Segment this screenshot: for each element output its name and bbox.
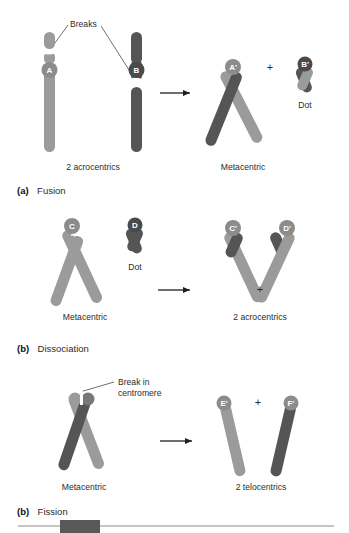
panel-b-arrow: [158, 287, 190, 293]
chromosome-F-prime-arm: [269, 403, 296, 478]
chromosome-A-prime-label: A': [229, 63, 237, 72]
footer-block: [60, 520, 100, 533]
panel-a-arrow: [160, 90, 190, 96]
footer-rule-group: [18, 520, 334, 533]
chromosome-D-dot: D Dot: [124, 218, 144, 273]
chromosome-D-prime-label: D': [283, 224, 291, 233]
chromosome-F-prime: F': [269, 396, 298, 478]
panel-a: Breaks A B 2 acrocentrics: [17, 19, 315, 197]
panel-c: Break in centromere Metacentric E' + F: [17, 377, 299, 518]
chromosome-C: C: [49, 218, 104, 308]
panel-a-caption-title: Fusion: [37, 185, 66, 196]
panel-a-dot-label: Dot: [298, 100, 312, 110]
panel-a-caption-prefix: (a): [17, 185, 29, 196]
chromosome-D-label: D: [132, 221, 138, 230]
panel-a-leader-right: [101, 26, 131, 73]
panel-b-dot-label: Dot: [128, 262, 142, 272]
panel-b-caption-title: Dissociation: [38, 343, 89, 354]
chromosome-rearrangement-figure: Breaks A B 2 acrocentrics: [0, 0, 349, 533]
panel-b-right-label: 2 acrocentrics: [233, 312, 287, 322]
panel-b-plus: +: [257, 283, 263, 295]
chromosome-E-prime-arm: [219, 403, 246, 478]
chromosome-A-upper-stub: [44, 53, 55, 63]
chromosome-C-prime-label: C': [229, 224, 237, 233]
panel-c-leader: [80, 382, 114, 392]
chromosome-B-prime-label: B': [301, 60, 309, 69]
panel-c-annotation-line2: centromere: [118, 388, 162, 398]
chromosome-A-label: A: [47, 66, 53, 75]
panel-c-caption-title: Fission: [38, 506, 68, 517]
chromosome-B-break-gap: [130, 78, 142, 86]
panel-c-arrow: [160, 438, 192, 444]
chromosome-A-short-arm: [44, 32, 55, 49]
chromosome-B: B: [129, 32, 145, 152]
chromosome-fission-centromere-left-half: [69, 393, 82, 406]
chromosome-A-break-gap: [43, 49, 55, 55]
panel-c-annotation-line1: Break in: [118, 377, 150, 387]
panel-a-caption: (a) Fusion: [17, 180, 66, 197]
panel-a-right-label: Metacentric: [221, 162, 266, 172]
panel-c-left-label: Metacentric: [62, 482, 107, 492]
chromosome-E-prime: E': [217, 396, 247, 478]
chromosome-fission-centromere-break: [80, 391, 83, 405]
chromosome-F-prime-label: F': [288, 399, 295, 408]
chromosome-fission-centromere-right-half: [82, 393, 95, 406]
chromosome-metacentric-fission: [57, 391, 106, 472]
chromosome-A: A: [42, 32, 58, 152]
chromosome-A-long-arm: [44, 66, 55, 152]
panel-c-caption: (b) Fission: [17, 501, 68, 518]
panel-b-left-label: Metacentric: [63, 312, 108, 322]
chromosome-C-label: C: [69, 222, 75, 231]
chromosome-B-long-arm: [131, 87, 142, 152]
panel-c-right-label: 2 telocentrics: [236, 482, 287, 492]
panel-c-plus: +: [255, 396, 261, 408]
chromosome-A-prime: A': [204, 59, 264, 147]
panel-b-caption-prefix: (b): [17, 343, 29, 354]
panel-b-caption: (b) Dissociation: [17, 338, 89, 355]
panel-c-caption-prefix: (b): [17, 506, 29, 517]
chromosome-E-prime-label: E': [220, 399, 227, 408]
panel-b: C D Dot Metacentric C' D': [17, 218, 296, 356]
chromosome-B-short-arm: [131, 32, 142, 64]
panel-a-annotation-breaks: Breaks: [70, 19, 97, 29]
panel-a-plus: +: [267, 61, 273, 73]
chromosome-B-label: B: [134, 66, 140, 75]
panel-a-left-label: 2 acrocentrics: [66, 162, 120, 172]
chromosome-B-prime-dot: B' Dot: [294, 57, 314, 111]
